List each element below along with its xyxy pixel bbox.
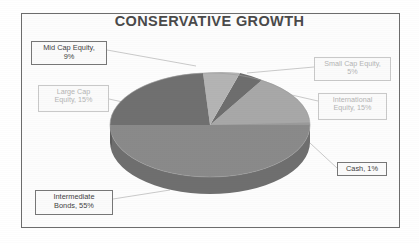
label-intermediate-bonds: Intermediate Bonds, 55%	[35, 190, 113, 215]
label-small-cap-equity: Small Cap Equity, 5%	[314, 57, 391, 81]
label-mid-cap-equity: Mid Cap Equity, 9%	[31, 41, 107, 65]
label-intermediate-bonds-line1: Intermediate	[53, 192, 94, 201]
label-large-cap-equity-line2: Equity, 15%	[42, 96, 105, 104]
label-small-cap-equity-line2: 5%	[318, 68, 387, 76]
chart-title: CONSERVATIVE GROWTH	[0, 13, 419, 29]
label-cash: Cash, 1%	[337, 162, 387, 176]
label-intermediate-bonds-line2: Bonds, 55%	[39, 202, 109, 211]
label-mid-cap-equity-line2: 9%	[35, 53, 103, 62]
label-cash-line1: Cash, 1%	[346, 165, 378, 174]
label-mid-cap-equity-line1: Mid Cap Equity,	[43, 43, 95, 52]
label-international-equity: International Equity, 15%	[318, 93, 387, 120]
label-international-equity-line2: Equity, 15%	[322, 104, 383, 112]
label-large-cap-equity: Large Cap Equity, 15%	[38, 85, 109, 112]
